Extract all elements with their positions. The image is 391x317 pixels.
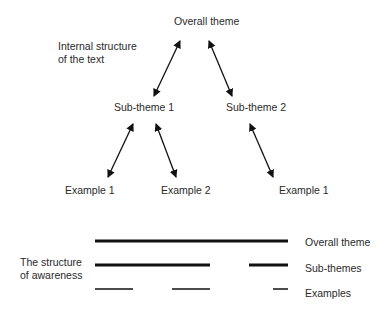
awareness-bars: [95, 241, 288, 289]
node-example-1: Example 1: [65, 184, 115, 197]
arrow-sub1-ex2: [156, 124, 176, 177]
row-label-sub-themes: Sub-themes: [305, 262, 362, 275]
row-label-examples: Examples: [305, 287, 351, 300]
arrow-sub2-ex1: [250, 124, 273, 177]
awareness-title-line1: The structure: [20, 256, 82, 269]
node-example-3: Example 1: [279, 184, 329, 197]
tree-title-line1: Internal structure: [58, 40, 137, 53]
node-subtheme-2: Sub-theme 2: [226, 101, 286, 114]
node-overall-theme: Overall theme: [174, 15, 239, 28]
row-label-overall-theme: Overall theme: [305, 236, 370, 249]
arrow-sub1-ex1: [108, 124, 133, 177]
node-example-2: Example 2: [161, 184, 211, 197]
tree-title-line2: of the text: [58, 53, 104, 66]
node-subtheme-1: Sub-theme 1: [114, 101, 174, 114]
awareness-title-line2: of awareness: [20, 269, 82, 282]
arrow-root-sub1: [154, 41, 180, 96]
arrow-root-sub2: [209, 41, 232, 96]
